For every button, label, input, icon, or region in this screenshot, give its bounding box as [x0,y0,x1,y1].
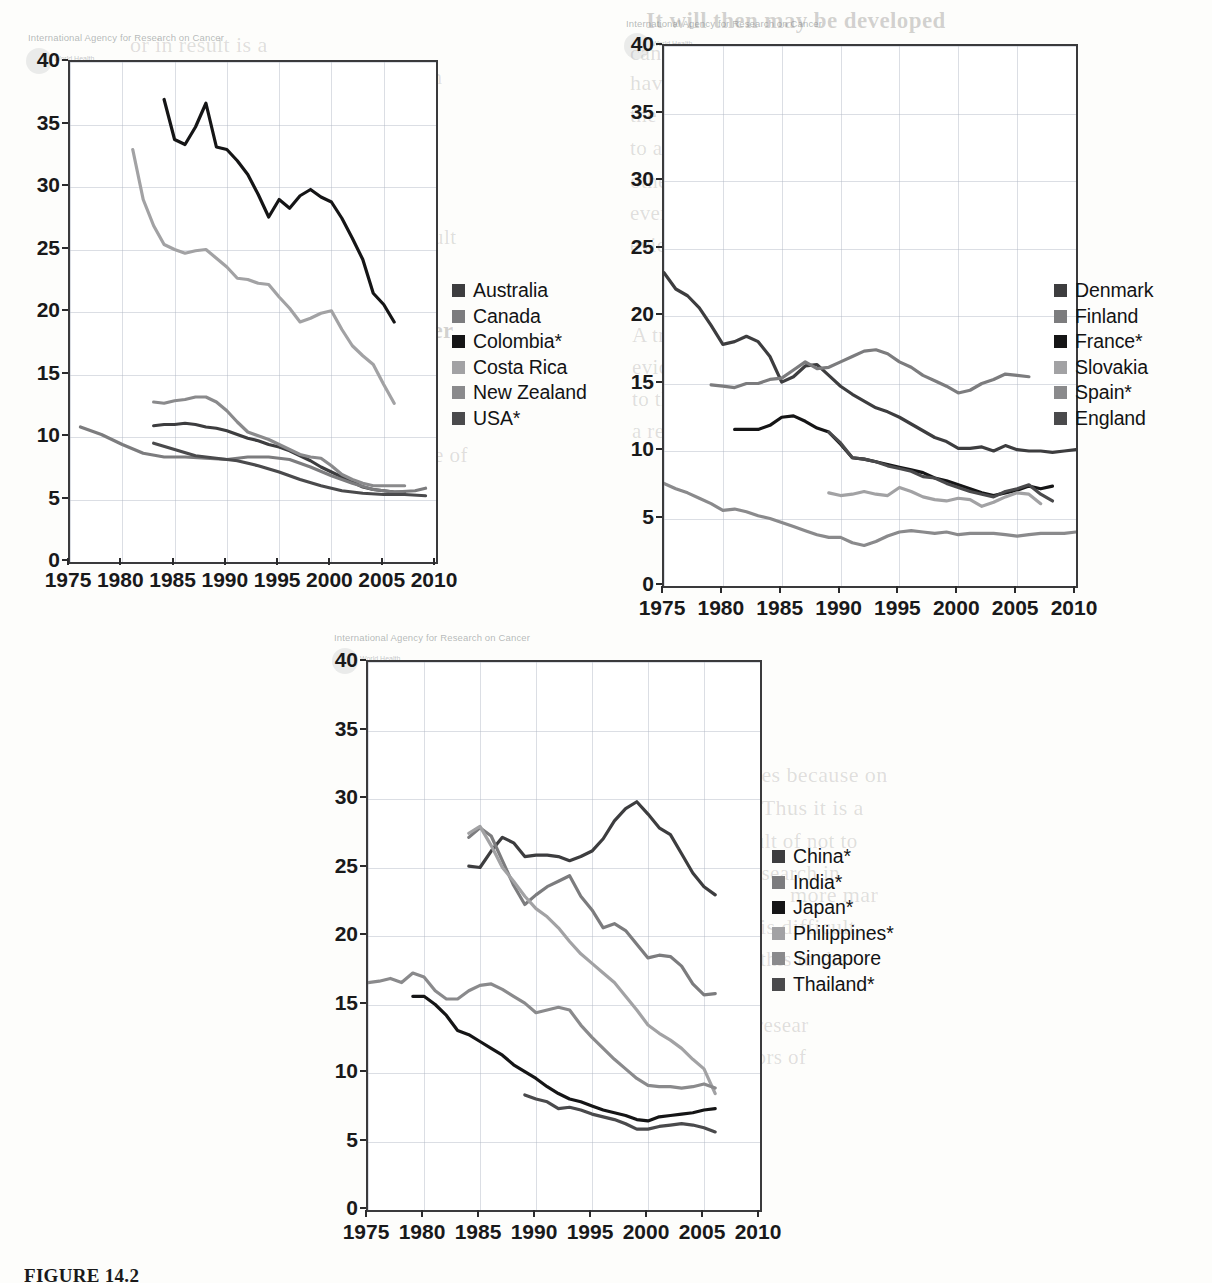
x-tick-label: 1980 [97,568,144,592]
y-tick-label: 40 [631,32,654,56]
y-tick-label: 20 [335,922,358,946]
watermark-title: International Agency for Research on Can… [334,632,530,643]
y-tick-label: 15 [631,370,654,394]
x-tick-label: 1975 [343,1220,390,1244]
legend-swatch-icon [772,927,785,940]
x-tick-label: 1985 [149,568,196,592]
y-tick-mark [62,372,68,374]
y-tick-mark [360,1002,366,1004]
y-tick-label: 5 [642,505,654,529]
y-tick-label: 40 [335,648,358,672]
legend-swatch-icon [1054,310,1067,323]
legend-label: Australia [473,279,548,302]
y-tick-label: 15 [335,991,358,1015]
x-tick-mark [119,558,121,565]
y-tick-label: 10 [37,423,60,447]
x-tick-mark [779,586,781,593]
y-tick-mark [656,448,662,450]
legend-label: Spain* [1075,381,1132,404]
series-line [735,416,1053,496]
legend-item[interactable]: Singapore [772,946,894,972]
legend-item[interactable]: New Zealand [452,380,587,406]
y-tick-mark [360,933,366,935]
y-tick-mark [62,309,68,311]
legend-swatch-icon [452,386,465,399]
chart-panel-1: International Agency for Research on Can… [0,0,640,610]
watermark-title: International Agency for Research on Can… [626,18,822,29]
legend-label: Finland [1075,305,1138,328]
legend-swatch-icon [452,361,465,374]
y-tick-label: 35 [37,111,60,135]
x-tick-label: 2005 [358,568,405,592]
legend-item[interactable]: Slovakia [1054,355,1153,381]
legend-item[interactable]: France* [1054,329,1153,355]
x-tick-label: 2000 [623,1220,670,1244]
legend-item[interactable]: Thailand* [772,972,894,998]
series-line [469,802,715,895]
x-tick-label: 2005 [679,1220,726,1244]
legend-item[interactable]: Costa Rica [452,355,587,381]
y-tick-label: 25 [631,235,654,259]
legend-swatch-icon [1054,412,1067,425]
legend-swatch-icon [1054,361,1067,374]
legend-item[interactable]: Australia [452,278,587,304]
x-tick-mark [955,586,957,593]
x-tick-mark [533,1210,535,1217]
legend-label: Philippines* [793,922,894,945]
series-line [413,996,715,1121]
y-tick-label: 25 [335,854,358,878]
x-tick-label: 1985 [455,1220,502,1244]
legend-label: China* [793,845,851,868]
plot-frame-2 [662,44,1078,588]
legend-label: Costa Rica [473,356,567,379]
legend-swatch-icon [1054,386,1067,399]
y-tick-mark [62,497,68,499]
legend-item[interactable]: Spain* [1054,380,1153,406]
y-tick-label: 0 [642,572,654,596]
legend-swatch-icon [1054,335,1067,348]
legend-item[interactable]: Canada [452,304,587,330]
y-tick-mark [62,184,68,186]
legend-item[interactable]: Colombia* [452,329,587,355]
x-tick-mark [661,586,663,593]
legend-label: Japan* [793,896,853,919]
y-tick-mark [360,1070,366,1072]
y-tick-mark [360,796,366,798]
y-tick-label: 10 [335,1059,358,1083]
x-axis-labels-3: 19751980198519901995200020052010 [366,1212,758,1252]
legend-item[interactable]: USA* [452,406,587,432]
x-tick-mark [477,1210,479,1217]
legend-swatch-icon [772,901,785,914]
y-tick-mark [62,59,68,61]
legend-label: Colombia* [473,330,562,353]
legend-swatch-icon [452,412,465,425]
x-tick-mark [421,1210,423,1217]
gridline-vertical [760,662,761,1210]
x-tick-mark [896,586,898,593]
legend-item[interactable]: India* [772,870,894,896]
legend-label: Slovakia [1075,356,1148,379]
y-tick-mark [360,728,366,730]
x-tick-label: 2010 [735,1220,782,1244]
legend-item[interactable]: Denmark [1054,278,1153,304]
y-tick-label: 20 [37,298,60,322]
x-tick-mark [224,558,226,565]
legend-item[interactable]: China* [772,844,894,870]
x-tick-label: 2010 [1051,596,1098,620]
legend-label: Denmark [1075,279,1153,302]
y-tick-label: 5 [346,1128,358,1152]
legend-2: DenmarkFinlandFrance*SlovakiaSpain*Engla… [1054,278,1153,431]
legend-item[interactable]: Japan* [772,895,894,921]
legend-item[interactable]: Finland [1054,304,1153,330]
x-tick-mark [172,558,174,565]
legend-label: England [1075,407,1146,430]
plot-area-1: 0510152025303540 [20,52,440,572]
x-tick-mark [433,558,435,565]
legend-item[interactable]: Philippines* [772,921,894,947]
legend-swatch-icon [772,978,785,991]
x-tick-mark [838,586,840,593]
x-tick-label: 1990 [201,568,248,592]
legend-item[interactable]: England [1054,406,1153,432]
y-tick-mark [656,111,662,113]
legend-swatch-icon [452,284,465,297]
